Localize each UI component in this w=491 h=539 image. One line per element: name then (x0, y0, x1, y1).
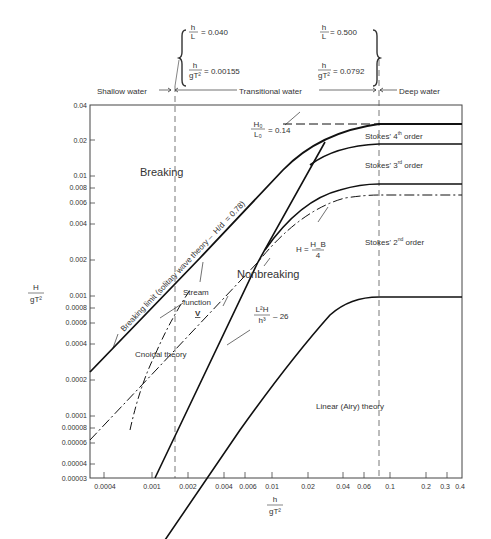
stokes2-linear-boundary (165, 297, 462, 539)
header-annotations: h L = 0.040 h gT² = 0.00155 h L = 0.500 … (97, 23, 440, 96)
label-stokes3: Stokes' 3rd order (365, 159, 423, 170)
y-tick-labels: 0.04 0.02 0.01 0.008 0.006 0.004 0.002 0… (62, 102, 87, 482)
svg-text:gT²: gT² (269, 507, 281, 516)
left-h-over-gT2: = 0.00155 (204, 67, 240, 76)
svg-text:0.06: 0.06 (357, 483, 371, 490)
svg-text:function: function (183, 298, 211, 307)
svg-text:0.006: 0.006 (239, 483, 257, 490)
svg-text:0.004: 0.004 (69, 220, 87, 227)
svg-text:0.04: 0.04 (73, 102, 87, 109)
svg-text:0.01: 0.01 (73, 172, 87, 179)
left-brace (179, 30, 186, 86)
left-h-over-L: = 0.040 (201, 28, 228, 37)
annotations: Breaking limit (solitary wave theory – H… (119, 120, 326, 333)
svg-text:4: 4 (316, 251, 321, 260)
svg-text:h: h (193, 61, 197, 70)
zone-transitional: Transitional water (239, 87, 302, 96)
ursell-num: L²H (256, 305, 269, 314)
x-tick-labels: 0.0004 0.001 0.002 0.004 0.006 0.01 0.02… (94, 483, 465, 490)
label-cnoidal: Cnoidal theory (135, 350, 187, 359)
svg-text:gT²: gT² (318, 71, 330, 80)
svg-text:0.3: 0.3 (440, 483, 450, 490)
svg-text:0.001: 0.001 (143, 483, 161, 490)
svg-text:L₀: L₀ (254, 130, 262, 139)
breaking-limit-label: Breaking limit (solitary wave theory – H… (119, 199, 247, 333)
svg-text:0.004: 0.004 (215, 483, 233, 490)
svg-text:0.01: 0.01 (265, 483, 279, 490)
svg-text:0.1: 0.1 (385, 483, 395, 490)
wave-theory-diagram: h L = 0.040 h gT² = 0.00155 h L = 0.500 … (0, 0, 491, 539)
svg-text:0.00006: 0.00006 (62, 439, 87, 446)
svg-text:0.4: 0.4 (455, 483, 465, 490)
svg-text:H_B: H_B (310, 240, 326, 249)
svg-text:0.00004: 0.00004 (62, 460, 87, 467)
svg-text:0.0001: 0.0001 (66, 412, 88, 419)
zone-shallow: Shallow water (97, 87, 147, 96)
svg-text:0.0004: 0.0004 (94, 483, 116, 490)
label-nonbreaking: Nonbreaking (237, 268, 299, 280)
svg-text:h: h (322, 23, 326, 32)
x-axis-label: h gT² (267, 495, 283, 516)
svg-text:0.0004: 0.0004 (66, 340, 88, 347)
svg-text:h³: h³ (258, 316, 265, 325)
label-stokes4: Stokes' 4th order (365, 130, 423, 141)
zone-deep: Deep water (399, 87, 440, 96)
svg-text:0.006: 0.006 (69, 199, 87, 206)
y-axis-label: H gT² (28, 283, 44, 304)
svg-text:0.04: 0.04 (336, 483, 350, 490)
svg-text:0.001: 0.001 (69, 292, 87, 299)
svg-text:h: h (322, 61, 326, 70)
svg-text:0.00008: 0.00008 (62, 424, 87, 431)
steepness-value: = 0.14 (268, 126, 291, 135)
label-stokes2: Stokes' 2nd order (365, 236, 424, 247)
svg-text:V: V (195, 309, 201, 318)
svg-text:gT²: gT² (30, 295, 42, 304)
svg-text:0.008: 0.008 (69, 184, 87, 191)
svg-text:H: H (33, 283, 39, 292)
steepness-num: H₀ (253, 120, 262, 129)
svg-text:L: L (191, 32, 196, 41)
ursell-26-line (155, 142, 325, 478)
label-breaking: Breaking (140, 166, 183, 178)
right-brace (373, 30, 380, 86)
right-h-over-L: = 0.500 (330, 28, 357, 37)
svg-text:0.02: 0.02 (301, 483, 315, 490)
frac-h: h (191, 23, 195, 32)
svg-text:0.0002: 0.0002 (66, 376, 88, 383)
svg-text:0.00003: 0.00003 (62, 475, 87, 482)
svg-text:0.002: 0.002 (69, 256, 87, 263)
svg-text:0.0008: 0.0008 (66, 304, 88, 311)
svg-text:L: L (322, 32, 327, 41)
svg-text:h: h (273, 495, 277, 504)
svg-text:0.0006: 0.0006 (66, 319, 88, 326)
hb-quarter-label: H = (296, 245, 309, 254)
ursell-value: – 26 (273, 312, 289, 321)
svg-text:gT²: gT² (189, 71, 201, 80)
label-linear-airy: Linear (Airy) theory (316, 402, 384, 411)
svg-text:0.02: 0.02 (73, 137, 87, 144)
stokes-3-2-boundary (265, 184, 462, 250)
svg-text:0.002: 0.002 (179, 483, 197, 490)
right-h-over-gT2: = 0.0792 (333, 67, 365, 76)
svg-text:0.2: 0.2 (421, 483, 431, 490)
label-stream-function: Stream (183, 288, 209, 297)
y-axis (90, 140, 95, 464)
